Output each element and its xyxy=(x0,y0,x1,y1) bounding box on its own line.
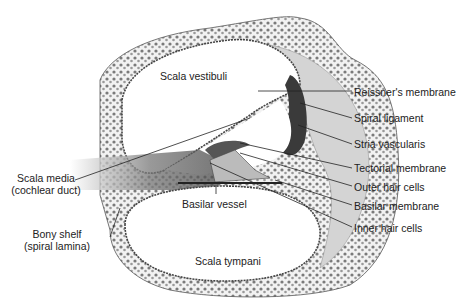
bony-shelf-label-line2: (spiral lamina) xyxy=(18,240,96,252)
scala-media-label-line1: Scala media xyxy=(10,172,82,184)
bony-shelf-label: Bony shelf (spiral lamina) xyxy=(18,228,96,252)
basilar-vessel-label: Basilar vessel xyxy=(182,198,247,210)
scala-media-label-line2: (cochlear duct) xyxy=(10,184,82,196)
scala-tympani-label: Scala tympani xyxy=(195,255,261,267)
outer-hair-cells-label: Outer hair cells xyxy=(354,181,425,193)
reissners-membrane-label: Reissner's membrane xyxy=(354,86,456,98)
basilar-membrane-label: Basilar membrane xyxy=(354,200,439,212)
inner-hair-cells-label: Inner hair cells xyxy=(354,222,422,234)
scala-vestibuli-label: Scala vestibuli xyxy=(160,70,227,82)
bony-shelf-label-line1: Bony shelf xyxy=(18,228,96,240)
tectorial-membrane-label: Tectorial membrane xyxy=(354,162,446,174)
stria-vascularis-label: Stria vascularis xyxy=(354,138,425,150)
scala-media-label: Scala media (cochlear duct) xyxy=(10,172,82,196)
spiral-ligament-label: Spiral ligament xyxy=(354,112,423,124)
